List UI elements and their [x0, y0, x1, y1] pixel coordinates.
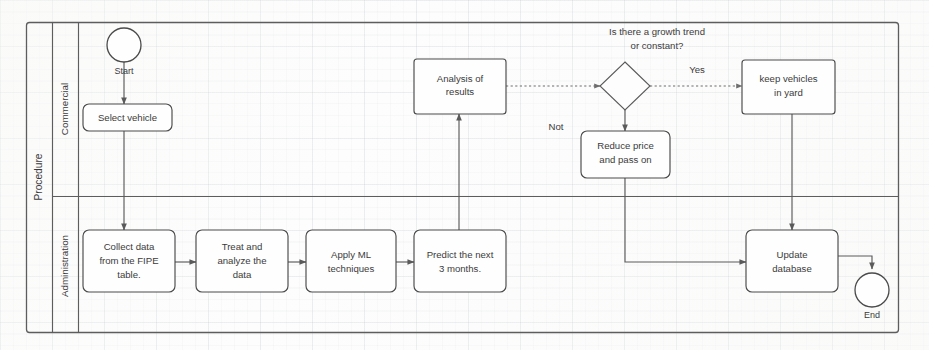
task-update-database-line-2: database: [772, 263, 811, 274]
svg-text:Not: Not: [549, 121, 564, 132]
task-predict-line-2: 3 months.: [439, 263, 481, 274]
flow-update-database-to-end: [838, 256, 872, 269]
start-event-label: Start: [114, 66, 134, 76]
task-treat-analyze-line-2: analyze the: [217, 255, 266, 266]
growth-gateway[interactable]: [600, 62, 650, 110]
task-reduce-price-line-2: and pass on: [599, 154, 651, 165]
pool-title-block: Procedure: [33, 153, 44, 200]
task-reduce-price-line-1: Reduce price: [597, 140, 654, 151]
task-predict-next-3-months[interactable]: Predict the next 3 months.: [414, 230, 506, 292]
flow-reduce-price-to-update-database: [625, 178, 746, 262]
task-collect-data-fipe[interactable]: Collect data from the FIPE table.: [83, 230, 175, 292]
lane-label-administration: Administration: [59, 235, 70, 297]
gateway-question-line1: Is there a growth trend: [609, 26, 705, 37]
task-treat-analyze-data[interactable]: Treat and analyze the data: [196, 230, 288, 292]
task-select-vehicle-line-1: Select vehicle: [98, 112, 157, 123]
task-predict-line-1: Predict the next: [427, 249, 494, 260]
task-reduce-price-and-pass-on[interactable]: Reduce price and pass on: [581, 131, 670, 178]
end-event[interactable]: End: [855, 273, 889, 320]
end-event-label: End: [864, 310, 880, 320]
task-collect-data-line-1: Collect data: [104, 241, 155, 252]
diagram-canvas: Procedure Commercial Administration: [0, 0, 929, 350]
task-collect-data-line-3: table.: [117, 269, 140, 280]
gateway-question-line2: or constant?: [631, 40, 684, 51]
task-keep-vehicles-in-yard[interactable]: keep vehicles in yard: [742, 60, 835, 114]
task-analysis-of-results[interactable]: Analysis of results: [414, 59, 506, 114]
bpmn-diagram: Procedure Commercial Administration: [0, 0, 929, 350]
task-analysis-of-results-line-1: Analysis of: [437, 73, 484, 84]
task-keep-vehicles-in-yard-line-1: keep vehicles: [759, 73, 817, 84]
task-treat-analyze-line-1: Treat and: [222, 241, 263, 252]
task-collect-data-line-2: from the FIPE: [99, 255, 158, 266]
task-update-database[interactable]: Update database: [746, 230, 838, 292]
task-analysis-of-results-line-2: results: [446, 86, 474, 97]
flow-label-yes: Yes: [689, 64, 705, 75]
start-event[interactable]: Start: [107, 28, 141, 76]
task-treat-analyze-line-3: data: [233, 269, 252, 280]
pool-title: Procedure: [33, 153, 44, 200]
task-update-database-line-1: Update: [777, 249, 808, 260]
flow-label-not: Not: [549, 121, 564, 132]
lane-label-commercial: Commercial: [59, 83, 70, 135]
lane-header-administration: Administration: [59, 235, 70, 297]
task-apply-ml-techniques[interactable]: Apply ML techniques: [306, 230, 396, 292]
task-apply-ml-line-2: techniques: [328, 263, 375, 274]
gateway-question-annotation: Is there a growth trend or constant?: [609, 26, 705, 51]
task-apply-ml-line-1: Apply ML: [331, 249, 372, 260]
task-keep-vehicles-in-yard-line-2: in yard: [774, 87, 803, 98]
lane-header-commercial: Commercial: [59, 83, 70, 135]
task-select-vehicle[interactable]: Select vehicle: [83, 104, 172, 131]
svg-text:Yes: Yes: [689, 64, 705, 75]
